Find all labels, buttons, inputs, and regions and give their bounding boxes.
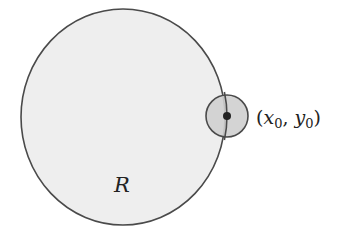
point-label-x-subscript: 0 (274, 116, 282, 131)
point-label-separator: , (282, 106, 294, 128)
boundary-point-dot (223, 112, 231, 120)
point-label-y: y (294, 106, 306, 128)
point-label-close-paren: ) (314, 106, 321, 128)
point-label-open-paren: ( (256, 106, 263, 128)
point-label-x: x (263, 106, 274, 128)
point-label: (x0, y0) (256, 106, 321, 131)
diagram-canvas: R (x0, y0) (0, 0, 347, 244)
region-label: R (113, 173, 130, 197)
point-label-y-subscript: 0 (305, 116, 313, 131)
